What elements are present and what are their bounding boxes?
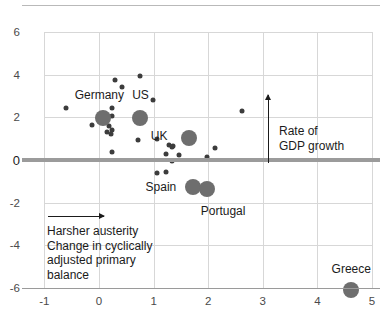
data-point-germany[interactable] bbox=[95, 110, 111, 126]
data-point[interactable] bbox=[109, 149, 114, 154]
scatter-chart: -10123456420-2-4-6GermanyUSUKSpainPortug… bbox=[0, 0, 390, 321]
austerity-line-2: adjusted primary bbox=[47, 253, 152, 268]
data-point[interactable] bbox=[90, 123, 95, 128]
data-point[interactable] bbox=[240, 109, 245, 114]
data-point[interactable] bbox=[136, 137, 141, 142]
data-point[interactable] bbox=[163, 151, 168, 156]
austerity-line-1: Change in cyclically bbox=[47, 239, 152, 254]
data-label-germany: Germany bbox=[75, 88, 124, 102]
gdp-growth-line-1: Rate of bbox=[279, 124, 344, 139]
data-label-greece: Greece bbox=[332, 262, 371, 276]
austerity-annotation: Harsher austerity Change in cyclically a… bbox=[47, 224, 152, 282]
data-label-uk: UK bbox=[151, 129, 168, 143]
x-tick-label: 5 bbox=[369, 295, 375, 307]
zero-baseline bbox=[22, 158, 380, 162]
x-tick-label: 3 bbox=[260, 295, 266, 307]
data-point[interactable] bbox=[163, 170, 168, 175]
x-tick-label: -1 bbox=[39, 295, 49, 307]
y-tick-label: -4 bbox=[10, 239, 20, 251]
data-label-us: US bbox=[132, 88, 149, 102]
data-point[interactable] bbox=[138, 73, 143, 78]
data-point[interactable] bbox=[64, 106, 69, 111]
data-label-spain: Spain bbox=[146, 180, 177, 194]
data-point[interactable] bbox=[155, 171, 160, 176]
y-tick-label: -6 bbox=[10, 282, 20, 294]
austerity-line-3: balance bbox=[47, 268, 152, 283]
x-tick-label: 2 bbox=[205, 295, 211, 307]
data-point[interactable] bbox=[109, 106, 114, 111]
y-tick-label: 4 bbox=[14, 69, 20, 81]
y-gridline bbox=[44, 75, 373, 76]
data-label-portugal: Portugal bbox=[201, 204, 246, 218]
data-point-portugal[interactable] bbox=[199, 181, 215, 197]
data-point[interactable] bbox=[212, 146, 217, 151]
data-point[interactable] bbox=[150, 97, 155, 102]
gdp-growth-arrow-icon bbox=[268, 95, 269, 163]
y-gridline bbox=[44, 117, 373, 118]
y-tick-label: 0 bbox=[13, 153, 20, 168]
y-gridline bbox=[44, 32, 373, 33]
gdp-growth-annotation: Rate of GDP growth bbox=[279, 124, 344, 153]
y-tick-label: -2 bbox=[10, 197, 20, 209]
data-point[interactable] bbox=[109, 131, 114, 136]
x-tick-label: 0 bbox=[96, 295, 102, 307]
austerity-heading: Harsher austerity bbox=[47, 224, 152, 239]
y-tick-label: 2 bbox=[14, 111, 20, 123]
x-tick-label: 1 bbox=[150, 295, 156, 307]
data-point-greece[interactable] bbox=[343, 282, 359, 298]
y-tick-label: 6 bbox=[14, 26, 20, 38]
austerity-arrow-icon bbox=[48, 216, 104, 217]
x-tick-label: 4 bbox=[314, 295, 320, 307]
x-axis-line bbox=[22, 288, 380, 289]
data-point[interactable] bbox=[113, 77, 118, 82]
gdp-growth-line-2: GDP growth bbox=[279, 139, 344, 154]
data-point-us[interactable] bbox=[132, 110, 148, 126]
data-point-uk[interactable] bbox=[181, 130, 197, 146]
data-point[interactable] bbox=[169, 144, 174, 149]
